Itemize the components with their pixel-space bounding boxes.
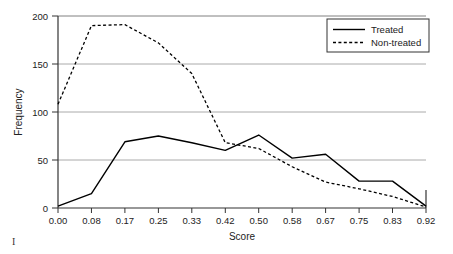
xtick-label-3: 0.25	[149, 215, 168, 226]
frequency-score-line-chart: 200 150 100 50 0 0.00 0.08 0.17 0.25	[0, 0, 453, 254]
xtick-label-10: 0.83	[383, 215, 402, 226]
xtick-label-7: 0.58	[283, 215, 302, 226]
xtick-label-4: 0.33	[183, 215, 202, 226]
chart-legend: Treated Non-treated	[327, 19, 429, 52]
xtick-label-0: 0.00	[49, 215, 68, 226]
xtick-label-11: 0.92	[417, 215, 436, 226]
xtick-label-5: 0.42	[216, 215, 235, 226]
xtick-label-1: 0.08	[82, 215, 101, 226]
ytick-label-0: 0	[43, 203, 48, 214]
x-axis-title: Score	[229, 231, 256, 242]
y-axis-tick-labels: 200 150 100 50 0	[32, 11, 48, 214]
ytick-label-100: 100	[32, 107, 48, 118]
ytick-label-200: 200	[32, 11, 48, 22]
figure-mark-label: I	[12, 236, 15, 247]
ytick-label-150: 150	[32, 59, 48, 70]
xtick-label-2: 0.17	[116, 215, 135, 226]
y-axis-ticks	[52, 16, 58, 208]
x-axis-tick-labels: 0.00 0.08 0.17 0.25 0.33 0.42 0.50 0.58 …	[49, 215, 436, 226]
x-axis-ticks	[58, 208, 426, 213]
figure-container: 200 150 100 50 0 0.00 0.08 0.17 0.25	[0, 0, 453, 254]
legend-label-non-treated: Non-treated	[371, 37, 421, 48]
ytick-label-50: 50	[37, 155, 48, 166]
legend-label-treated: Treated	[371, 24, 403, 35]
xtick-label-8: 0.67	[316, 215, 335, 226]
xtick-label-6: 0.50	[249, 215, 268, 226]
y-axis-title: Frequency	[13, 88, 24, 135]
xtick-label-9: 0.75	[350, 215, 369, 226]
